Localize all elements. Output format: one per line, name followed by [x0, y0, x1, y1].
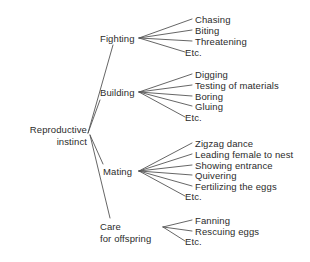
edge-care-to-fanning — [163, 220, 192, 227]
leaf-etc-building: Etc. — [185, 112, 202, 123]
edge-building-to-etc — [139, 92, 185, 117]
leaf-rescuing-eggs: Rescuing eggs — [195, 226, 259, 237]
leaf-etc-care-for-offspring: Etc. — [185, 236, 202, 247]
leaf-chasing: Chasing — [195, 14, 231, 25]
leaf-biting: Biting — [195, 25, 219, 36]
edge-care-to-etc — [163, 227, 185, 241]
edge-mating-to-etc — [139, 171, 185, 196]
root-node: Reproductive instinct — [5, 124, 87, 147]
leaf-fertilizing-the-eggs: Fertilizing the eggs — [195, 181, 277, 192]
leaf-testing-of-materials: Testing of materials — [195, 80, 279, 91]
leaf-etc-mating: Etc. — [185, 191, 202, 202]
leaf-leading-female-to-nest: Leading female to nest — [195, 149, 293, 160]
branch-node-care-line2: for offspring — [100, 233, 151, 245]
leaf-etc-fighting: Etc. — [185, 47, 202, 58]
root-node-line2: instinct — [5, 136, 87, 148]
leaf-digging: Digging — [195, 69, 228, 80]
leaf-gluing: Gluing — [195, 101, 223, 112]
leaf-threatening: Threatening — [195, 36, 247, 47]
edge-root-to-mating — [90, 135, 103, 164]
branch-node-mating: Mating — [103, 166, 132, 177]
branch-node-building: Building — [100, 87, 135, 98]
edge-building-to-testing — [139, 85, 192, 92]
edge-fighting-to-chasing — [139, 19, 192, 38]
reproductive-instinct-diagram: Reproductive instinct Fighting Building … — [0, 0, 310, 262]
branch-node-fighting: Fighting — [100, 33, 135, 44]
branch-node-care-line1: Care — [100, 221, 151, 233]
edge-fighting-to-biting — [139, 30, 192, 38]
edge-building-to-digging — [139, 74, 192, 92]
edge-root-to-building — [88, 100, 100, 133]
leaf-zigzag-dance: Zigzag dance — [195, 138, 253, 149]
leaf-fanning: Fanning — [195, 215, 230, 226]
leaf-quivering: Quivering — [195, 170, 237, 181]
root-node-line1: Reproductive — [5, 124, 87, 136]
edge-care-to-rescuing-eggs — [163, 227, 192, 231]
branch-node-care-for-offspring: Care for offspring — [100, 221, 151, 244]
